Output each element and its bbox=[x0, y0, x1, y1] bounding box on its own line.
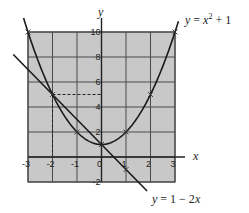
svg-text:-3: -3 bbox=[22, 159, 30, 169]
svg-text:-2: -2 bbox=[92, 177, 100, 187]
y-axis-label: y bbox=[97, 5, 104, 19]
svg-text:4: 4 bbox=[95, 102, 100, 112]
svg-text:-2: -2 bbox=[46, 159, 54, 169]
parabola-label: y = x2 + 1 bbox=[184, 12, 231, 27]
svg-text:10: 10 bbox=[90, 27, 100, 37]
svg-text:2: 2 bbox=[146, 159, 151, 169]
graph: -3-2-10123-2246810 x y y = x2 + 1 y = 1 … bbox=[0, 0, 249, 213]
svg-text:8: 8 bbox=[95, 52, 100, 62]
x-axis-label: x bbox=[192, 149, 199, 163]
svg-text:0: 0 bbox=[97, 159, 102, 169]
line-label: y = 1 − 2x bbox=[151, 192, 201, 206]
svg-text:3: 3 bbox=[170, 159, 175, 169]
svg-text:2: 2 bbox=[95, 127, 100, 137]
svg-text:6: 6 bbox=[95, 77, 100, 87]
svg-text:-1: -1 bbox=[71, 159, 79, 169]
